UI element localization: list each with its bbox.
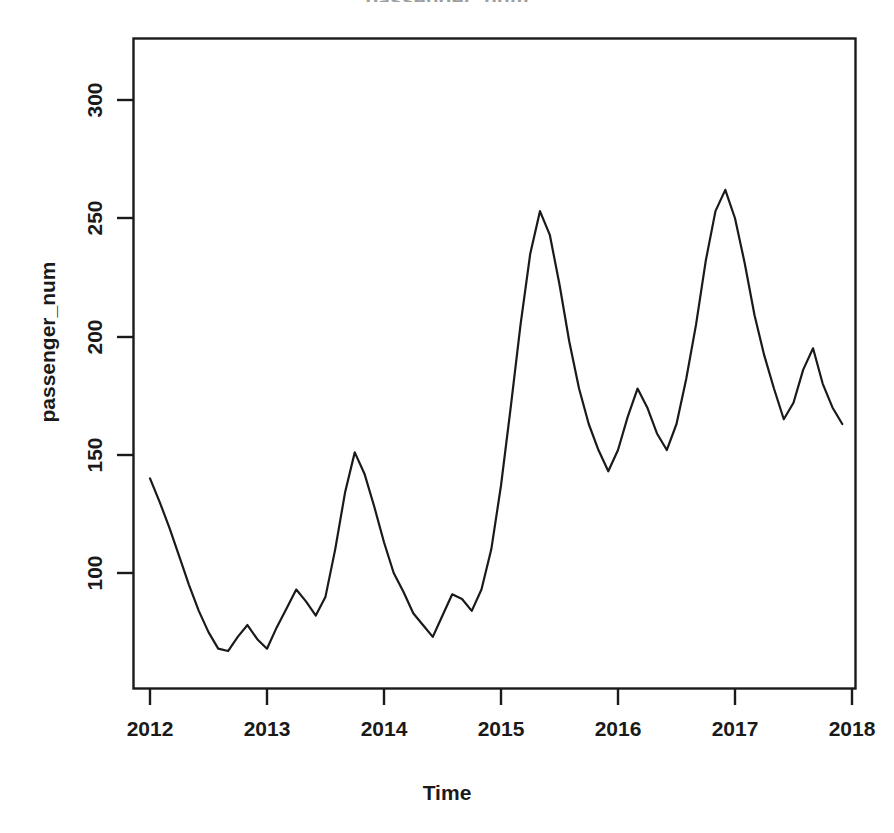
y-axis-ticks [117, 100, 134, 573]
plot-canvas [0, 0, 894, 833]
x-axis-ticks [150, 689, 852, 706]
plot-border [134, 39, 856, 689]
time-series-figure: passenger_num passenger_num Time 300 250… [0, 0, 894, 833]
series-line-passenger-num [150, 190, 842, 651]
